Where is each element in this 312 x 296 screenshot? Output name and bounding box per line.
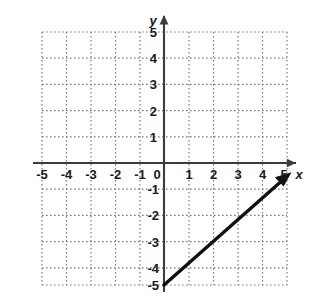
y-tick-label--5: -5 [147, 278, 159, 293]
x-tick-label-4: 4 [259, 167, 267, 182]
origin-label: 0 [153, 167, 160, 182]
y-tick-label-4: 4 [150, 51, 158, 66]
y-axis-label: y [148, 13, 157, 28]
figure-background [0, 0, 312, 296]
y-tick-label--1: -1 [147, 182, 159, 197]
y-tick-label-3: 3 [150, 77, 157, 92]
coordinate-plane-svg: -5 -4 -3 -2 -1 0 1 2 3 4 5 5 4 3 2 1 -1 … [0, 0, 312, 296]
y-tick-label--2: -2 [147, 208, 159, 223]
x-tick-label-5: 5 [280, 167, 287, 182]
y-tick-label--3: -3 [147, 235, 159, 250]
x-tick-label-1: 1 [185, 167, 192, 182]
x-tick-label-3: 3 [234, 167, 241, 182]
x-axis-label: x [294, 167, 303, 182]
y-tick-label--4: -4 [147, 261, 159, 276]
x-tick-label--3: -3 [85, 167, 97, 182]
x-tick-label--1: -1 [134, 167, 146, 182]
x-tick-label-2: 2 [210, 167, 217, 182]
coordinate-plane-figure: -5 -4 -3 -2 -1 0 1 2 3 4 5 5 4 3 2 1 -1 … [0, 0, 312, 296]
x-tick-label--2: -2 [110, 167, 122, 182]
y-tick-label-1: 1 [150, 130, 157, 145]
y-tick-label-2: 2 [150, 104, 157, 119]
x-tick-label--4: -4 [61, 167, 73, 182]
x-tick-label--5: -5 [36, 167, 48, 182]
